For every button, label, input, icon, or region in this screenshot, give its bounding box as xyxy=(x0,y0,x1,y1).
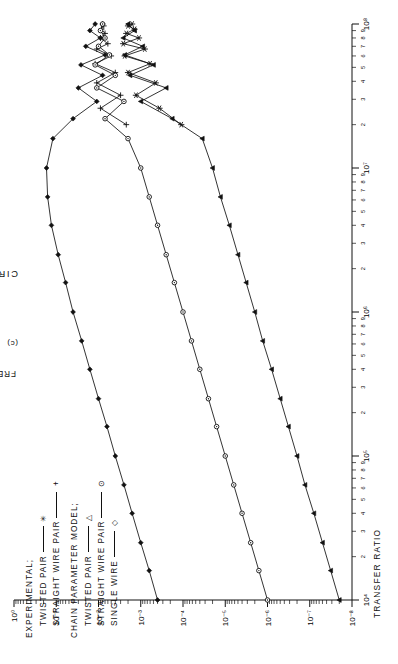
diamond-marker xyxy=(105,424,110,429)
triangle-marker xyxy=(121,36,125,41)
x-minor-tick-label: 7 xyxy=(360,333,366,336)
x-minor-tick-label: 2 xyxy=(360,267,366,270)
triangle-marker xyxy=(200,136,204,141)
triangle-marker xyxy=(151,62,155,67)
diamond-marker xyxy=(79,338,84,343)
diamond-marker xyxy=(113,454,118,459)
circle-marker xyxy=(147,195,152,200)
series-line xyxy=(123,24,339,600)
diamond-shape xyxy=(113,454,118,459)
x-minor-tick-label: 5 xyxy=(360,66,366,69)
circle-marker xyxy=(93,63,98,68)
circle-marker xyxy=(172,280,177,285)
circle-dot xyxy=(208,398,209,399)
diamond-shape xyxy=(71,310,76,315)
plus-marker xyxy=(118,92,124,98)
diamond-marker xyxy=(147,568,152,573)
circle-marker xyxy=(138,166,143,171)
circle-dot xyxy=(233,484,234,485)
x-minor-tick-label: 3 xyxy=(360,98,366,101)
diamond-shape xyxy=(45,194,50,199)
x-minor-tick-label: 3 xyxy=(360,242,366,245)
circle-marker xyxy=(181,310,186,315)
diamond-shape xyxy=(56,252,61,257)
triangle-shape xyxy=(151,62,155,67)
diamond-marker xyxy=(44,166,49,171)
x-minor-tick-label: 5 xyxy=(360,354,366,357)
circle-marker xyxy=(103,116,108,121)
x-minor-tick-label: 4 xyxy=(360,80,366,83)
x-minor-tick-label: 7 xyxy=(360,477,366,480)
diamond-shape xyxy=(79,62,84,67)
series-model-straight-wire-pair xyxy=(93,22,270,603)
y-tick-label: 10⁻³ xyxy=(137,610,146,626)
circle-dot xyxy=(123,101,124,102)
y-tick-label: 10⁰ xyxy=(10,610,19,622)
circle-marker xyxy=(189,339,194,344)
circle-marker xyxy=(155,223,160,228)
circle-dot xyxy=(182,311,183,312)
circle-dot xyxy=(140,167,141,168)
circle-marker xyxy=(107,53,112,58)
plus-marker xyxy=(98,105,104,111)
x-minor-tick-label: 5 xyxy=(360,210,366,213)
figure-canvas: EXPERIMENTAL; TWISTED PAIR ✳ STRAIGHT WI… xyxy=(0,0,398,664)
x-minor-tick-label: 3 xyxy=(360,386,366,389)
x-minor-tick-label: 8 xyxy=(360,324,366,327)
x-minor-tick-label: 6 xyxy=(360,54,366,57)
circle-marker xyxy=(164,252,169,257)
triangle-shape xyxy=(164,85,168,90)
circle-dot xyxy=(115,75,116,76)
asterisk-marker xyxy=(123,31,129,36)
circle-marker xyxy=(240,511,245,516)
circle-dot xyxy=(96,87,97,88)
circle-dot xyxy=(104,118,105,119)
circle-dot xyxy=(98,46,99,47)
diamond-marker xyxy=(87,367,92,372)
circle-dot xyxy=(199,369,200,370)
circle-marker xyxy=(265,598,270,603)
plus-marker xyxy=(94,80,100,86)
x-minor-tick-label: 9 xyxy=(360,461,366,464)
diamond-marker xyxy=(45,194,50,199)
plus-marker xyxy=(123,122,129,128)
circle-marker xyxy=(206,396,211,401)
circle-dot xyxy=(94,64,95,65)
circle-dot xyxy=(241,513,242,514)
circle-dot xyxy=(191,340,192,341)
diamond-marker xyxy=(155,598,160,603)
circle-marker xyxy=(122,99,127,104)
diamond-marker xyxy=(130,511,135,516)
x-minor-tick-label: 2 xyxy=(360,411,366,414)
x-minor-tick-label: 8 xyxy=(360,36,366,39)
diamond-marker xyxy=(96,396,101,401)
circle-dot xyxy=(102,23,103,24)
y-tick-label: 10⁻⁶ xyxy=(264,610,273,626)
y-tick-label: 10⁻⁸ xyxy=(348,610,357,626)
x-minor-tick-label: 4 xyxy=(360,368,366,371)
diamond-shape xyxy=(63,280,68,285)
circle-marker xyxy=(100,22,105,27)
circle-dot xyxy=(127,138,128,139)
circle-dot xyxy=(216,426,217,427)
plot-area: 10⁴10⁵10⁶10⁷10⁸2345678923456789234567892… xyxy=(0,0,398,664)
diamond-shape xyxy=(147,568,152,573)
x-minor-tick-label: 8 xyxy=(360,180,366,183)
circle-marker xyxy=(98,28,103,33)
circle-dot xyxy=(104,37,105,38)
x-tick-label: 10⁴ xyxy=(362,593,371,606)
diamond-shape xyxy=(105,424,110,429)
circle-marker xyxy=(198,367,203,372)
circle-dot xyxy=(174,282,175,283)
asterisk-marker xyxy=(120,41,126,46)
data-series-layer xyxy=(44,21,341,602)
circle-dot xyxy=(149,196,150,197)
triangle-marker xyxy=(138,99,142,104)
circle-marker xyxy=(223,454,228,459)
diamond-shape xyxy=(100,73,105,78)
circle-marker xyxy=(231,483,236,488)
circle-dot xyxy=(267,599,268,600)
diamond-marker xyxy=(71,310,76,315)
series-model-twisted-pair xyxy=(121,22,341,603)
diamond-marker xyxy=(56,252,61,257)
